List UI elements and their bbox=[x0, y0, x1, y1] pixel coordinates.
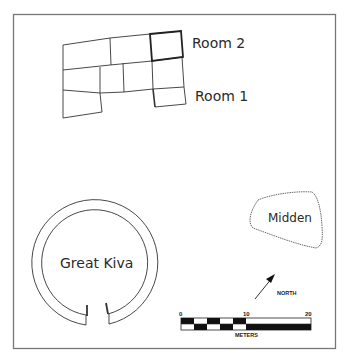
room-block bbox=[63, 31, 186, 118]
scale-tick-0: 0 bbox=[179, 311, 183, 317]
room-2-label: Room 2 bbox=[192, 35, 245, 51]
room-2-outline bbox=[150, 31, 183, 61]
great-kiva-label: Great Kiva bbox=[60, 255, 133, 271]
scale-bar bbox=[181, 318, 311, 330]
north-arrow-icon bbox=[255, 274, 275, 299]
site-map: Room 2 Room 1 Midden Great Kiva NORTH 0 … bbox=[0, 0, 347, 361]
scale-unit-label: METERS bbox=[235, 332, 258, 338]
scale-tick-20: 20 bbox=[305, 311, 312, 317]
midden-label: Midden bbox=[268, 211, 312, 225]
scale-tick-10: 10 bbox=[243, 311, 250, 317]
room-1-label: Room 1 bbox=[195, 88, 248, 104]
north-label: NORTH bbox=[277, 290, 297, 296]
map-border bbox=[14, 15, 336, 349]
